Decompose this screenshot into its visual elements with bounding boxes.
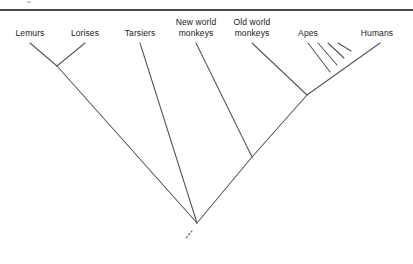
label-lorises: Lorises: [60, 28, 110, 39]
branch-catarrhine-stem: [252, 95, 307, 157]
branch-ape-2: [318, 43, 337, 65]
branch-tarsiers-line: [140, 43, 252, 223]
branch-ape-4: [338, 43, 351, 51]
root-stub: [186, 231, 192, 238]
cladogram-figure: Lemurs Lorises Tarsiers New world monkey…: [0, 0, 413, 264]
label-old-world-monkeys: Old world monkeys: [220, 17, 284, 38]
branch-new-world-monkeys: [196, 43, 252, 157]
label-humans: Humans: [352, 28, 402, 39]
branch-tarsiers-seg: [140, 43, 197, 223]
branch-lorises: [57, 43, 85, 66]
label-apes: Apes: [286, 28, 330, 39]
branch-lemurs: [30, 43, 57, 66]
branch-ape-1: [308, 43, 330, 72]
label-lemurs: Lemurs: [5, 28, 55, 39]
branch-haplorhine-stem: [197, 157, 252, 223]
branch-old-world-monkeys: [252, 43, 307, 95]
branch-hominoid-stem: [307, 43, 380, 95]
branch-strepsirrhine-stem: [57, 66, 197, 223]
label-tarsiers: Tarsiers: [114, 28, 166, 39]
cladogram-branches: [0, 0, 413, 264]
label-new-world-monkeys: New world monkeys: [164, 17, 228, 38]
